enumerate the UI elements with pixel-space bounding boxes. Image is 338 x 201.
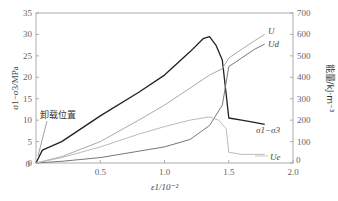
series-line-Ue (36, 117, 265, 163)
y-right-axis-title: 能量/kJ·m⁻³ (325, 64, 336, 113)
label-U: U (268, 26, 275, 36)
y-left-tick-label: 15 (23, 94, 33, 104)
y-right-tick-label: 200 (297, 115, 311, 125)
label-stress: σ1−σ3 (256, 125, 280, 135)
label-Ud: Ud (268, 39, 279, 49)
y-left-tick-label: 35 (23, 8, 33, 18)
y-left-axis-title: σ1−σ3/MPa (10, 66, 20, 109)
x-axis-title: ε1/10⁻² (151, 182, 179, 192)
series-line-Ud (36, 44, 265, 163)
y-right-tick-label: 0 (296, 155, 301, 165)
y-right-tick-label: 500 (297, 51, 311, 61)
y-right-tick-label: 700 (297, 8, 311, 18)
y-right-tick-label: 400 (297, 72, 311, 82)
label-Ue: Ue (270, 152, 281, 162)
y-left-tick-label: 25 (23, 51, 33, 61)
x-tick-label: 1.5 (223, 167, 235, 177)
x-zero-label: 0 (26, 159, 31, 169)
series-line-σ1−σ3 (36, 37, 265, 163)
unload-position-annotation: 卸载位置 (40, 109, 76, 120)
x-tick-label: 2.0 (287, 167, 299, 177)
y-left-tick-label: 5 (28, 137, 33, 147)
stress-energy-chart: 0510152025303501002003004005006007000.51… (0, 0, 338, 201)
x-tick-label: 0.5 (95, 167, 107, 177)
x-tick-label: 1.0 (159, 167, 171, 177)
y-right-tick-label: 100 (297, 137, 311, 147)
y-left-tick-label: 10 (23, 115, 33, 125)
y-right-tick-label: 600 (297, 29, 311, 39)
y-left-tick-label: 20 (23, 72, 33, 82)
y-left-tick-label: 30 (23, 29, 33, 39)
plot-frame (36, 13, 293, 163)
series-line-U (36, 34, 265, 163)
y-right-tick-label: 300 (297, 94, 311, 104)
